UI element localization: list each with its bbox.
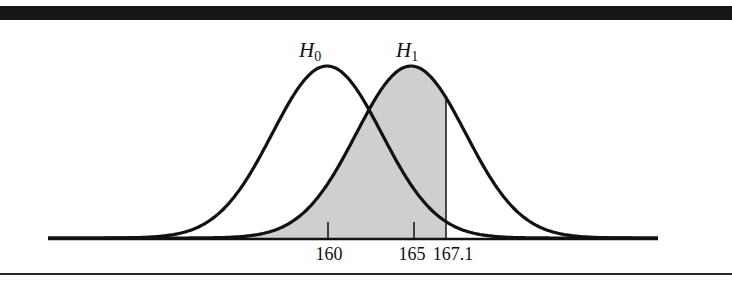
distribution-plot [0,0,732,284]
h0-label-sub: 0 [314,49,321,64]
tick-label-165: 165 [399,245,426,263]
h1-label-main: H [396,38,411,62]
h1-label-sub: 1 [411,49,418,64]
tick-label-160: 160 [316,245,343,263]
bottom-rule [0,273,732,275]
h0-label-main: H [299,38,314,62]
shaded-region-h1 [48,66,446,238]
h1-label: H1 [396,40,418,64]
h0-label: H0 [299,40,321,64]
tick-label-167-1: 167.1 [433,245,474,263]
